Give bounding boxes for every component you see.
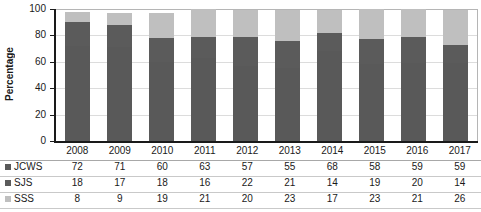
table-header-cell-year: 2017 — [439, 143, 481, 159]
bar-segment-sss[interactable] — [401, 9, 426, 37]
table-cell-value: 59 — [439, 159, 481, 175]
table-row-cells: 72716063575568585959 — [56, 159, 481, 175]
table-cell-value: 20 — [226, 191, 269, 207]
table-cell-value: 23 — [269, 191, 312, 207]
bar-segment-jcws[interactable] — [107, 47, 132, 141]
legend-item-jcws[interactable]: JCWS — [0, 159, 56, 175]
table-cell-value: 19 — [354, 175, 397, 191]
bar-slot — [56, 9, 98, 141]
table-cell-value: 21 — [184, 191, 227, 207]
table-cell-value: 18 — [56, 175, 99, 191]
table-cell-value: 17 — [99, 175, 142, 191]
table-cell-value: 72 — [56, 159, 99, 175]
y-axis-tick-mark — [50, 62, 55, 63]
y-axis-tick-mark — [50, 115, 55, 116]
bar-segment-jcws[interactable] — [359, 64, 384, 141]
bar-segment-jcws[interactable] — [191, 58, 216, 141]
bar-segment-sjs[interactable] — [317, 33, 342, 51]
y-axis-tick-label: 60 — [18, 57, 46, 67]
table-cell-value: 19 — [141, 191, 184, 207]
stacked-bar[interactable] — [107, 9, 132, 141]
bar-slot — [98, 9, 140, 141]
bar-slot — [393, 9, 435, 141]
bar-segment-jcws[interactable] — [317, 51, 342, 141]
stacked-bar[interactable] — [359, 9, 384, 141]
stacked-bar[interactable] — [443, 9, 468, 141]
bar-segment-sjs[interactable] — [107, 25, 132, 47]
bar-segment-sss[interactable] — [107, 13, 132, 25]
stacked-bar[interactable] — [233, 9, 258, 141]
y-axis-tick-mark — [50, 9, 55, 10]
table-row-cells: 18171816222114192014 — [56, 175, 481, 191]
bar-segment-sjs[interactable] — [233, 37, 258, 66]
table-header-cell-year: 2015 — [354, 143, 397, 159]
bar-segment-sjs[interactable] — [443, 45, 468, 63]
legend-item-sjs[interactable]: SJS — [0, 175, 56, 191]
table-cell-value: 68 — [311, 159, 354, 175]
y-axis-tick-mark — [50, 35, 55, 36]
bar-segment-jcws[interactable] — [233, 66, 258, 141]
bar-segment-sss[interactable] — [359, 9, 384, 39]
stacked-bar[interactable] — [401, 9, 426, 141]
table-row: SJS18171816222114192014 — [0, 175, 481, 191]
table-cell-value: 71 — [99, 159, 142, 175]
bar-segment-sjs[interactable] — [359, 39, 384, 64]
stacked-bar[interactable] — [191, 9, 216, 141]
table-rule — [0, 208, 481, 209]
y-axis-tick-mark — [50, 88, 55, 89]
bar-segment-sss[interactable] — [275, 10, 300, 40]
legend-swatch-icon — [5, 164, 11, 170]
y-axis-title: Percentage — [2, 24, 16, 124]
bar-segment-sss[interactable] — [233, 10, 258, 36]
table-cell-value: 22 — [226, 175, 269, 191]
bar-segment-sjs[interactable] — [401, 37, 426, 63]
table-header-cell-year: 2013 — [269, 143, 312, 159]
bar-segment-sjs[interactable] — [65, 22, 90, 46]
bar-segment-jcws[interactable] — [443, 63, 468, 141]
table-cell-value: 23 — [354, 191, 397, 207]
table-row: SSS891921202317232126 — [0, 191, 481, 207]
table-cell-value: 18 — [141, 175, 184, 191]
table-header-cells: 2008200920102011201220132014201520162017 — [56, 143, 481, 159]
bar-segment-jcws[interactable] — [401, 63, 426, 141]
table-cell-value: 59 — [396, 159, 439, 175]
stacked-bar[interactable] — [65, 9, 90, 141]
chart-page: Percentage 100806040200 2008200920102011… — [0, 0, 481, 212]
bar-segment-sss[interactable] — [149, 13, 174, 38]
bar-slot — [266, 9, 308, 141]
bar-segment-jcws[interactable] — [275, 68, 300, 141]
bar-segment-sjs[interactable] — [191, 37, 216, 58]
bar-segment-jcws[interactable] — [65, 46, 90, 141]
table-cell-value: 14 — [311, 175, 354, 191]
bar-segment-sss[interactable] — [65, 12, 90, 23]
legend-swatch-icon — [5, 180, 11, 186]
stacked-bar[interactable] — [275, 9, 300, 141]
y-axis-tick-labels: 100806040200 — [18, 7, 50, 144]
table-cell-value: 8 — [56, 191, 99, 207]
bar-slot — [351, 9, 393, 141]
bar-segment-sss[interactable] — [317, 10, 342, 32]
y-axis-tick-label: 40 — [18, 83, 46, 93]
bar-segment-sjs[interactable] — [275, 41, 300, 69]
table-cell-value: 17 — [311, 191, 354, 207]
table-cell-value: 14 — [439, 175, 481, 191]
table-header-cell-year: 2011 — [184, 143, 227, 159]
bar-segment-sjs[interactable] — [149, 38, 174, 62]
bar-segment-jcws[interactable] — [149, 62, 174, 141]
table-header-cell-year: 2010 — [141, 143, 184, 159]
chart-plot-area: Percentage 100806040200 — [0, 0, 481, 150]
table-header-cell-year: 2016 — [396, 143, 439, 159]
table-cell-value: 9 — [99, 191, 142, 207]
bar-slot — [182, 9, 224, 141]
bar-segment-sss[interactable] — [191, 9, 216, 37]
legend-swatch-icon — [5, 196, 11, 202]
table-cell-value: 21 — [269, 175, 312, 191]
stacked-bar[interactable] — [149, 9, 174, 141]
table-cell-value: 60 — [141, 159, 184, 175]
legend-item-sss[interactable]: SSS — [0, 191, 56, 207]
bar-series-container — [56, 9, 477, 141]
table-cell-value: 26 — [439, 191, 481, 207]
bar-slot — [140, 9, 182, 141]
stacked-bar[interactable] — [317, 9, 342, 141]
bar-segment-sss[interactable] — [443, 10, 468, 44]
